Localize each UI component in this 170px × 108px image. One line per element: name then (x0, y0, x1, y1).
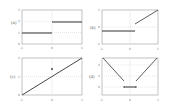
panel-a: (a) 3 2 1 0 -1 0 1 (0, 0, 85, 54)
y-tick: 0 (18, 93, 20, 97)
panel-c: (c) 2 1 0 -1 0 1 (0, 54, 85, 108)
x-tick: -1 (20, 98, 23, 102)
y-label: (b) (90, 25, 96, 30)
x-tick: 0 (129, 98, 131, 102)
x-tick: 0 (129, 47, 131, 51)
y-label: (c) (10, 74, 16, 79)
y-tick: 2 (18, 56, 20, 60)
y-tick: 1 (98, 8, 100, 12)
x-tick: 1 (157, 98, 159, 102)
panel-d: (d) 4 2 0 -1 0 1 (85, 54, 170, 108)
chart-d: (d) 4 2 0 -1 0 1 (85, 54, 170, 108)
y-label: (d) (89, 74, 95, 79)
y-tick: 3 (18, 8, 20, 12)
x-tick: -1 (20, 46, 23, 50)
x-tick: 0 (51, 46, 53, 50)
y-tick: 0 (98, 25, 100, 29)
x-tick: 0 (51, 98, 53, 102)
x-tick: 1 (81, 46, 83, 50)
chart-c: (c) 2 1 0 -1 0 1 (0, 54, 85, 108)
x-tick: 1 (157, 47, 159, 51)
y-tick: 1 (18, 31, 20, 35)
y-tick: -1 (97, 42, 100, 46)
y-tick: 2 (98, 74, 100, 78)
chart-b: (b) 1 0 -1 -1 0 1 (85, 0, 170, 54)
chart-a: (a) 3 2 1 0 -1 0 1 (0, 0, 85, 54)
panel-b: (b) 1 0 -1 -1 0 1 (85, 0, 170, 54)
y-tick: 4 (98, 63, 100, 67)
x-tick: -1 (100, 98, 103, 102)
y-tick: 0 (98, 85, 100, 89)
y-tick: 2 (18, 19, 20, 23)
x-tick: -1 (100, 47, 103, 51)
x-tick: 1 (81, 98, 83, 102)
y-label: (a) (11, 20, 17, 25)
y-tick: 1 (18, 75, 20, 79)
